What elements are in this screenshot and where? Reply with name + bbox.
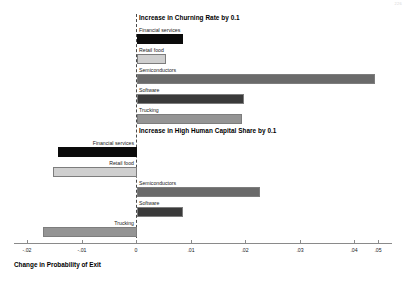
panel-title-high-human-capital-share: Increase in High Human Capital Share by … (139, 127, 276, 134)
x-tick-label: -.01 (78, 247, 87, 253)
x-axis-title: Change in Probability of Exit (14, 261, 101, 268)
x-tick-label: .03 (296, 247, 303, 253)
x-tick-label: .05 (374, 247, 381, 253)
bar-label-semiconductors-p2: Semiconductors (139, 180, 176, 186)
x-tick-mark (82, 240, 83, 244)
x-tick-mark (27, 240, 28, 244)
bar-trucking-p1 (137, 114, 242, 124)
x-tick-mark (354, 240, 355, 244)
bar-label-financial-services-p2: Financial services (49, 140, 134, 146)
bar-software-p2 (137, 207, 183, 217)
bar-trucking-p2 (43, 227, 137, 237)
bar-label-retail-food-p2: Retail food (49, 160, 134, 166)
bar-financial-services-p1 (137, 34, 183, 44)
x-tick-mark (378, 240, 379, 244)
bar-semiconductors-p2 (137, 187, 260, 197)
x-tick-label: -.02 (23, 247, 32, 253)
x-axis-line (14, 243, 392, 244)
x-tick-mark (245, 240, 246, 244)
x-tick-mark (136, 240, 137, 244)
bar-financial-services-p2 (58, 147, 137, 157)
bar-label-financial-services-p1: Financial services (139, 27, 180, 33)
panel-title-churning-rate: Increase in Churning Rate by 0.1 (139, 14, 240, 21)
bar-label-software-p1: Software (139, 87, 159, 93)
bar-label-retail-food-p1: Retail food (139, 47, 164, 53)
x-tick-label: .04 (350, 247, 357, 253)
bar-retail-food-p2 (53, 167, 137, 177)
chart-plot-area: Increase in Churning Rate by 0.1 Financi… (0, 0, 406, 283)
bar-label-software-p2: Software (139, 200, 159, 206)
x-tick-label: .02 (241, 247, 248, 253)
bar-label-semiconductors-p1: Semiconductors (139, 67, 176, 73)
bar-label-trucking-p2: Trucking (49, 220, 134, 226)
bar-software-p1 (137, 94, 244, 104)
bar-retail-food-p1 (137, 54, 166, 64)
x-tick-mark (300, 240, 301, 244)
x-tick-label: .01 (187, 247, 194, 253)
bar-semiconductors-p1 (137, 74, 375, 84)
bar-label-trucking-p1: Trucking (139, 107, 159, 113)
x-tick-label: 0 (135, 247, 138, 253)
x-tick-mark (191, 240, 192, 244)
figure-root: 226 Increase in Churning Rate by 0.1 Fin… (0, 0, 406, 283)
